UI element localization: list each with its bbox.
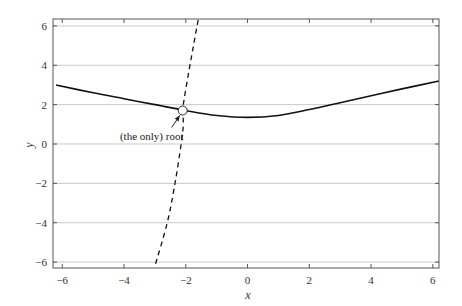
annotation-text: (the only) root [120, 130, 184, 143]
dashed-curve [155, 20, 198, 266]
y-tick-label: 4 [42, 59, 48, 71]
x-tick-label: −4 [118, 274, 130, 286]
gridlines [53, 26, 439, 262]
x-tick-label: 2 [307, 274, 313, 286]
x-axis-label: x [244, 288, 251, 302]
ticks [53, 19, 439, 268]
y-tick-label: −2 [35, 177, 47, 189]
solid-curve [56, 81, 439, 117]
x-tick-label: 6 [430, 274, 436, 286]
root-marker-icon [178, 106, 187, 115]
x-tick-label: −6 [56, 274, 68, 286]
chart: −6 −4 −2 0 2 4 6 6 4 2 0 −2 −4 −6 x y (t… [0, 0, 462, 306]
x-tick-labels: −6 −4 −2 0 2 4 6 [56, 274, 436, 286]
y-tick-label: 0 [42, 138, 48, 150]
x-tick-label: 0 [245, 274, 251, 286]
x-tick-label: 4 [368, 274, 374, 286]
plot-frame [53, 19, 439, 268]
y-tick-label: 2 [42, 99, 48, 111]
arrow-head-icon [175, 116, 180, 122]
x-tick-label: −2 [180, 274, 192, 286]
curves [56, 20, 439, 266]
root-annotation: (the only) root [120, 106, 187, 143]
y-tick-label: −6 [35, 256, 47, 268]
y-tick-labels: 6 4 2 0 −2 −4 −6 [35, 20, 47, 268]
y-axis-label: y [22, 142, 36, 149]
y-tick-label: 6 [42, 20, 48, 32]
y-tick-label: −4 [35, 217, 47, 229]
